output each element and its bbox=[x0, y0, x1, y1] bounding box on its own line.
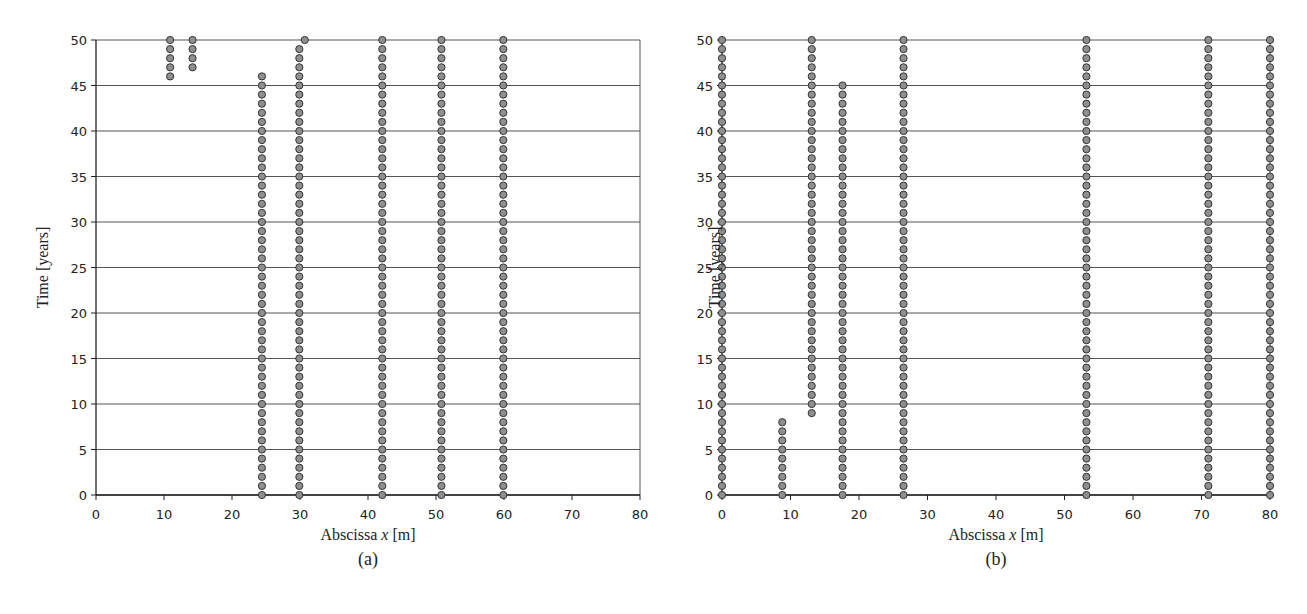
x-tick-label: 70 bbox=[564, 507, 581, 522]
data-point bbox=[900, 437, 907, 444]
data-point bbox=[718, 319, 725, 326]
data-point bbox=[296, 82, 303, 89]
data-point bbox=[718, 127, 725, 134]
data-point bbox=[438, 46, 445, 53]
data-point bbox=[296, 118, 303, 125]
x-tick-label: 0 bbox=[92, 507, 100, 522]
data-point bbox=[1205, 255, 1212, 262]
data-point bbox=[1205, 209, 1212, 216]
data-point bbox=[296, 473, 303, 480]
data-point bbox=[1083, 82, 1090, 89]
data-point bbox=[1266, 255, 1273, 262]
data-point bbox=[900, 209, 907, 216]
data-point bbox=[808, 355, 815, 362]
data-point bbox=[438, 419, 445, 426]
data-point bbox=[258, 309, 265, 316]
data-point bbox=[296, 146, 303, 153]
data-point bbox=[1083, 337, 1090, 344]
data-point bbox=[296, 364, 303, 371]
data-point bbox=[1083, 391, 1090, 398]
scatter-plot-b: 0510152025303540455001020304050607080Abs… bbox=[650, 0, 1307, 614]
data-point bbox=[296, 182, 303, 189]
data-point bbox=[258, 346, 265, 353]
data-point bbox=[1205, 100, 1212, 107]
data-point bbox=[258, 146, 265, 153]
data-point bbox=[808, 291, 815, 298]
data-point bbox=[1083, 346, 1090, 353]
data-point bbox=[808, 255, 815, 262]
x-tick-label: 40 bbox=[360, 507, 377, 522]
data-point bbox=[718, 328, 725, 335]
data-point bbox=[808, 328, 815, 335]
data-point bbox=[839, 146, 846, 153]
data-point bbox=[258, 364, 265, 371]
data-point bbox=[839, 300, 846, 307]
data-point bbox=[1205, 446, 1212, 453]
data-point bbox=[500, 464, 507, 471]
data-point bbox=[839, 328, 846, 335]
data-point bbox=[900, 73, 907, 80]
data-point bbox=[1083, 209, 1090, 216]
data-point bbox=[258, 118, 265, 125]
data-point bbox=[1083, 237, 1090, 244]
data-point bbox=[438, 373, 445, 380]
y-tick-label: 15 bbox=[70, 352, 87, 367]
data-point bbox=[438, 137, 445, 144]
data-point bbox=[189, 64, 196, 71]
data-point bbox=[258, 91, 265, 98]
data-point bbox=[296, 127, 303, 134]
data-point bbox=[438, 264, 445, 271]
data-point bbox=[1266, 455, 1273, 462]
data-point bbox=[1205, 382, 1212, 389]
data-point bbox=[1266, 382, 1273, 389]
data-point bbox=[438, 455, 445, 462]
data-point bbox=[296, 291, 303, 298]
data-point bbox=[1266, 319, 1273, 326]
data-point bbox=[1205, 309, 1212, 316]
data-point bbox=[379, 64, 386, 71]
data-point bbox=[1083, 382, 1090, 389]
data-point bbox=[438, 109, 445, 116]
data-point bbox=[379, 46, 386, 53]
data-point bbox=[1266, 137, 1273, 144]
data-point bbox=[718, 173, 725, 180]
data-point bbox=[1083, 291, 1090, 298]
y-tick-label: 50 bbox=[696, 33, 713, 48]
data-point bbox=[718, 419, 725, 426]
data-point bbox=[718, 455, 725, 462]
data-point bbox=[718, 482, 725, 489]
data-point bbox=[1205, 337, 1212, 344]
y-tick-label: 10 bbox=[70, 397, 87, 412]
data-point bbox=[438, 55, 445, 62]
data-point bbox=[296, 355, 303, 362]
data-point bbox=[438, 237, 445, 244]
data-point bbox=[296, 200, 303, 207]
data-point bbox=[500, 337, 507, 344]
data-point bbox=[1266, 337, 1273, 344]
data-point bbox=[258, 218, 265, 225]
x-tick-label: 80 bbox=[1262, 507, 1279, 522]
data-point bbox=[839, 209, 846, 216]
data-point bbox=[438, 73, 445, 80]
data-point bbox=[1083, 319, 1090, 326]
data-point bbox=[1205, 473, 1212, 480]
data-point bbox=[500, 55, 507, 62]
data-point bbox=[1266, 464, 1273, 471]
data-point bbox=[500, 419, 507, 426]
data-point bbox=[296, 337, 303, 344]
data-point bbox=[258, 391, 265, 398]
data-point bbox=[500, 319, 507, 326]
data-point bbox=[900, 300, 907, 307]
data-point bbox=[1266, 291, 1273, 298]
data-point bbox=[500, 118, 507, 125]
data-point bbox=[1083, 455, 1090, 462]
data-point bbox=[900, 273, 907, 280]
data-point bbox=[1266, 73, 1273, 80]
data-point bbox=[1083, 491, 1090, 498]
data-point bbox=[839, 155, 846, 162]
data-point bbox=[1205, 428, 1212, 435]
data-point bbox=[900, 328, 907, 335]
y-tick-label: 40 bbox=[70, 124, 87, 139]
data-point bbox=[167, 73, 174, 80]
gridlines bbox=[722, 40, 1270, 495]
